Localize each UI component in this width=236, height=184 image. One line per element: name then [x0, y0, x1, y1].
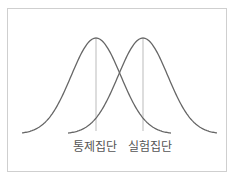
control-group-label: 통제집단: [73, 137, 117, 154]
experimental-group-label: 실험집단: [128, 137, 172, 154]
distribution-diagram: [0, 0, 236, 184]
